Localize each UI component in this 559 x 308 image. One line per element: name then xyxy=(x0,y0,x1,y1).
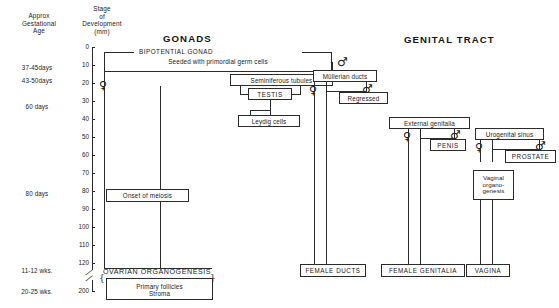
urogenital-female-line xyxy=(480,140,481,162)
axis-tick-label: 40 xyxy=(58,115,89,122)
meiosis-through-line xyxy=(160,86,161,189)
testis-to-leydig-line xyxy=(270,100,271,115)
mullerian-ducts-label: Müllerian ducts xyxy=(314,73,376,80)
axis-tick xyxy=(92,263,95,264)
leydig-connector-rule xyxy=(250,110,271,111)
axis-tick-label: 100 xyxy=(56,223,89,230)
urogenital-sinus-box: Urogenital sinus xyxy=(475,128,544,140)
axis-tick xyxy=(92,119,95,120)
axis-tick xyxy=(92,173,95,174)
penis-label: PENIS xyxy=(431,142,465,149)
axis-tick-label: 110 xyxy=(56,241,89,248)
axis-tick-label: 50 xyxy=(58,133,89,140)
vaginal-organogenesis-label: Vaginal organo- genesis xyxy=(474,175,513,195)
axis-tick-label: 20 xyxy=(58,79,89,86)
vagina-box: VAGINA xyxy=(466,264,510,277)
axis-tick xyxy=(92,65,95,66)
female-ducts-box: FEMALE DUCTS xyxy=(300,264,366,277)
axis-tick xyxy=(92,227,95,228)
vaginal-organogenesis-box: Vaginal organo- genesis xyxy=(473,170,514,200)
axis-line-main xyxy=(92,47,93,270)
bipotential-gonad-label: BIPOTENTIAL GONAD xyxy=(136,48,216,55)
female-ducts-label: FEMALE DUCTS xyxy=(301,267,365,274)
meiosis-exit-line xyxy=(160,202,161,268)
urogenital-male-line xyxy=(539,140,540,149)
external-genitalia-female-line xyxy=(408,129,409,264)
section-title-genital-tract: GENITAL TRACT xyxy=(404,34,495,45)
gonad-female-branch-line xyxy=(104,72,105,268)
axis-tick xyxy=(92,291,95,292)
primary-follicles-stroma-box: Primary follicles Stroma xyxy=(106,278,213,300)
bipotential-top-left-rule xyxy=(104,52,134,53)
seeded-with-germ-cells-label: Seeded with primordial germ cells xyxy=(105,58,331,65)
external-genitalia-male-line xyxy=(454,129,455,138)
axis-tick xyxy=(92,101,95,102)
onset-of-meiosis-box: Onset of meiosis xyxy=(106,189,189,202)
age-label: 11-12 wks. xyxy=(4,267,70,274)
axis-tick-label: 70 xyxy=(58,169,89,176)
axis-tick xyxy=(92,137,95,138)
urogenital-female-inner-line xyxy=(492,140,493,162)
axis-tick-label: 120 xyxy=(56,259,89,266)
column-header-stage: Stage of Development (mm) xyxy=(72,5,132,35)
vaginal-organogenesis-output-inner-line xyxy=(492,200,493,264)
leydig-cells-box: Leydig cells xyxy=(238,115,300,127)
axis-tick-label: 90 xyxy=(58,205,89,212)
female-genitalia-label: FEMALE GENITALIA xyxy=(382,267,464,274)
axis-tick xyxy=(92,47,95,48)
prostate-box: PROSTATE xyxy=(505,150,556,163)
external-genitalia-label: External genitalia xyxy=(390,120,469,127)
regressed-box: Regressed xyxy=(339,92,388,104)
axis-tick-label: 10 xyxy=(58,61,89,68)
penis-box: PENIS xyxy=(430,139,466,151)
prostate-label: PROSTATE xyxy=(506,153,555,160)
vagina-label: VAGINA xyxy=(467,267,509,274)
bipotential-gonad-box: Seeded with primordial germ cells xyxy=(104,52,332,72)
bipotential-top-right-rule xyxy=(302,52,332,53)
stroma-label: Stroma xyxy=(107,290,212,297)
axis-tick xyxy=(92,155,95,156)
ovarian-organogenesis-label: OVARIAN ORGANOGENESIS xyxy=(103,268,211,276)
regressed-label: Regressed xyxy=(340,95,387,102)
figure-canvas: Approx Gestational Age Stage of Developm… xyxy=(0,0,559,308)
axis-tick-label: 30 xyxy=(58,97,89,104)
column-header-age: Approx Gestational Age xyxy=(8,12,70,35)
mullerian-male-line xyxy=(366,82,367,91)
urogenital-sinus-label: Urogenital sinus xyxy=(476,131,543,138)
seminiferous-to-testis-line xyxy=(240,86,241,94)
axis-tick-label: 60 xyxy=(58,151,89,158)
testis-label: TESTIS xyxy=(249,91,291,98)
leydig-cells-label: Leydig cells xyxy=(239,118,299,125)
age-label: 60 days xyxy=(4,103,70,110)
mullerian-ducts-box: Müllerian ducts xyxy=(313,70,377,82)
axis-tick xyxy=(92,191,95,192)
axis-tick-label: 0 xyxy=(58,43,89,50)
vaginal-organogenesis-output-line xyxy=(480,200,481,264)
female-genitalia-box: FEMALE GENITALIA xyxy=(381,264,465,277)
testis-box: TESTIS xyxy=(248,88,292,100)
mullerian-female-inner-line xyxy=(326,82,327,264)
axis-tick-label: 80 xyxy=(58,187,89,194)
onset-of-meiosis-label: Onset of meiosis xyxy=(107,192,188,199)
male-symbol-gonad: ♂ xyxy=(337,57,348,68)
external-genitalia-female-inner-line xyxy=(420,129,421,264)
seminiferous-right-drop-line xyxy=(300,86,301,94)
mullerian-female-line xyxy=(314,82,315,264)
section-title-gonads: GONADS xyxy=(163,33,212,44)
axis-tick-label: 200 xyxy=(56,287,89,294)
stroma-box-left-brace: { xyxy=(99,273,105,283)
axis-tick xyxy=(92,83,95,84)
primary-follicles-label: Primary follicles xyxy=(107,283,212,290)
axis-tick xyxy=(92,209,95,210)
axis-tick xyxy=(92,245,95,246)
